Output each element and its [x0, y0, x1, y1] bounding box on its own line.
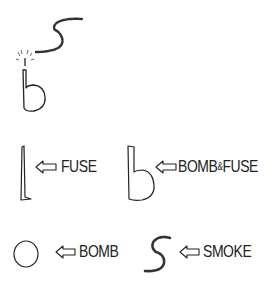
arrow-left-icon [0, 225, 140, 285]
legend-item-smoke: SMOKE [140, 225, 277, 285]
legend-item-bomb-and-fuse: BOMB&FUSE [120, 140, 277, 210]
label-smoke: SMOKE [203, 242, 251, 262]
label-bomb: BOMB [79, 242, 118, 262]
arrow-left-icon [0, 140, 120, 210]
label-fuse: FUSE [61, 157, 97, 177]
label-bomb-and-fuse: BOMB&FUSE [178, 157, 258, 177]
legend-item-bomb: BOMB [0, 225, 140, 285]
smoke-icon [0, 0, 100, 120]
lit-bomb-figure [0, 0, 100, 120]
legend-item-fuse: FUSE [0, 140, 120, 210]
